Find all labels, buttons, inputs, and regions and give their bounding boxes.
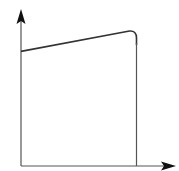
function-diagram — [0, 0, 179, 171]
function-curve — [21, 31, 137, 51]
